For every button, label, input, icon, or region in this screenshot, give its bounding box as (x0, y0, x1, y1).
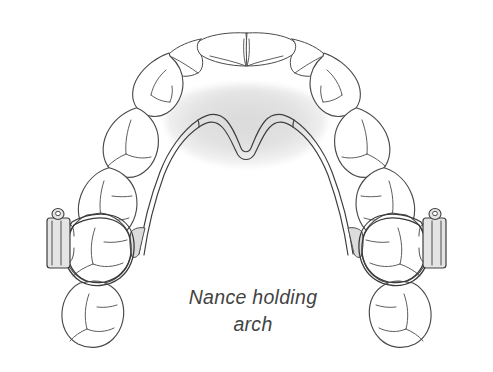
tooth-left-first-premolar (103, 108, 158, 177)
tooth-left-second-molar (62, 281, 124, 347)
nance-holding-arch-figure: Nance holding arch (0, 0, 493, 372)
figure-caption: Nance holding arch (148, 284, 358, 338)
buccal-tube-left (47, 209, 74, 269)
tooth-right-central-incisor (246, 33, 296, 66)
buccal-tube-right (419, 209, 446, 269)
acrylic-button (166, 85, 327, 166)
tooth-left-central-incisor (196, 33, 246, 66)
tooth-right-first-premolar (335, 108, 390, 177)
tooth-right-second-molar (369, 281, 431, 347)
